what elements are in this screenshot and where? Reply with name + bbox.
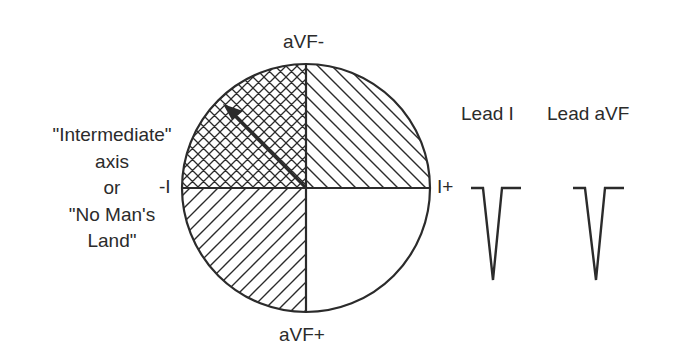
intermediate-axis-annotation: "Intermediate" axis or "No Man's Land": [0, 122, 224, 255]
axis-label-avf-positive: aVF+: [279, 324, 325, 346]
lead-i-waveform: [471, 188, 521, 280]
annotation-line: "No Man's: [0, 202, 224, 229]
annotation-line: Land": [0, 228, 224, 255]
axis-label-i-positive: I+: [437, 176, 453, 198]
lead-avf-waveform: [573, 188, 624, 280]
lead-avf-label: Lead aVF: [547, 103, 629, 125]
lead-i-label: Lead I: [461, 103, 514, 125]
annotation-line: or: [0, 175, 224, 202]
axis-label-avf-negative: aVF-: [283, 31, 324, 53]
annotation-line: axis: [0, 149, 224, 176]
annotation-line: "Intermediate": [0, 122, 224, 149]
